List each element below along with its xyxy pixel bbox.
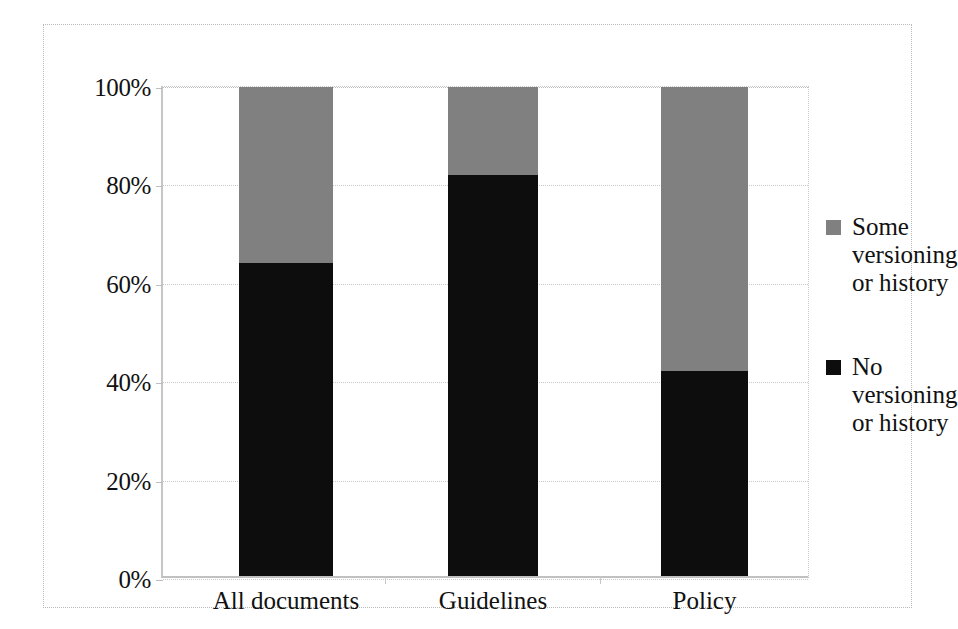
- bar-stack: [239, 87, 333, 576]
- y-axis-label-100: 100%: [94, 75, 151, 100]
- y-axis-label-0: 0%: [118, 567, 151, 592]
- y-axis-label-80: 80%: [106, 173, 151, 198]
- x-axis-tick-1: [385, 576, 386, 584]
- bar-segment-no-versioning[interactable]: [448, 175, 538, 576]
- bar-segment-some-versioning[interactable]: [448, 87, 538, 175]
- chart-frame: 100% 80% 60% 40% 20% 0% All documents Gu…: [43, 24, 912, 608]
- plot-area: 100% 80% 60% 40% 20% 0% All documents Gu…: [161, 86, 809, 578]
- bar-stack: [661, 87, 748, 576]
- x-axis-tick-2: [600, 576, 601, 584]
- legend-label-no-versioning: No versioning or history: [852, 353, 954, 437]
- legend-swatch-icon: [826, 220, 841, 235]
- bar-segment-some-versioning[interactable]: [239, 87, 333, 263]
- legend-swatch-icon: [826, 360, 841, 375]
- bar-group-policy[interactable]: Policy: [661, 87, 748, 576]
- x-axis-label-policy: Policy: [575, 588, 835, 613]
- bar-segment-some-versioning[interactable]: [661, 87, 748, 371]
- y-axis-label-60: 60%: [106, 271, 151, 296]
- legend-label-some-versioning: Some versioning or history: [852, 213, 954, 297]
- legend-item-no-versioning[interactable]: No versioning or history: [826, 353, 954, 437]
- y-axis-label-40: 40%: [106, 370, 151, 395]
- chart-legend: Some versioning or history No versioning…: [826, 213, 954, 493]
- legend-item-some-versioning[interactable]: Some versioning or history: [826, 213, 954, 297]
- bar-group-all-documents[interactable]: All documents: [239, 87, 333, 576]
- gridline-0: [163, 579, 808, 580]
- y-axis-label-20: 20%: [106, 468, 151, 493]
- bar-segment-no-versioning[interactable]: [661, 371, 748, 576]
- bar-group-guidelines[interactable]: Guidelines: [448, 87, 538, 576]
- bar-stack: [448, 87, 538, 576]
- bar-segment-no-versioning[interactable]: [239, 263, 333, 576]
